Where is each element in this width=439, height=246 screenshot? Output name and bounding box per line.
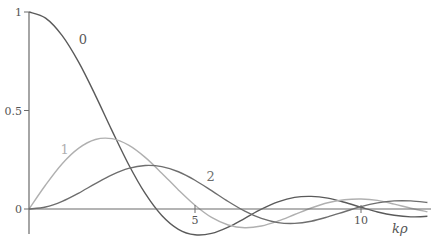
y-tick-label-1: 1 — [15, 6, 22, 19]
curve-labels-group: 012 — [61, 32, 215, 185]
x-axis-label: kρ — [392, 221, 408, 236]
y-tick-label-0: 0 — [15, 203, 22, 216]
curves-group — [29, 12, 427, 235]
ticks-group: 51000.51 — [5, 6, 369, 227]
series-label-0: 0 — [79, 32, 87, 47]
x-tick-label-5: 5 — [192, 214, 199, 227]
bessel-chart: 51000.51 012 kρ — [0, 0, 439, 246]
x-tick-label-10: 10 — [354, 214, 368, 227]
series-label-1: 1 — [61, 142, 69, 157]
y-tick-label-0.5: 0.5 — [5, 105, 23, 118]
series-label-2: 2 — [207, 169, 215, 184]
